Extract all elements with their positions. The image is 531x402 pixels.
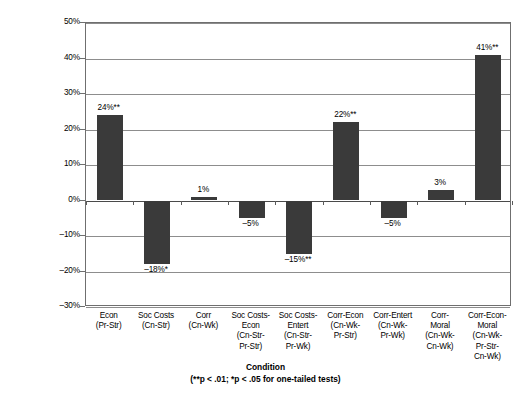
y-tick-label: –30% [38,302,80,310]
bar-value-label: 1% [163,185,243,194]
x-tick-mark [370,201,371,205]
y-tick-label: 30% [38,89,80,97]
gridline-50 [86,23,510,24]
y-tick-mark [79,93,85,94]
x-tick-mark [417,201,418,205]
x-category-label: Corr-Entert (Cn-Wk- Pr-Wk) [369,311,416,342]
gridline--30 [86,307,510,308]
x-category-label: Soc Costs (Cn-Str) [132,311,179,331]
x-tick-mark [323,201,324,205]
bar-value-label: –5% [211,219,291,228]
y-tick-mark [79,164,85,165]
y-tick-mark [79,306,85,307]
bar [191,197,217,201]
x-tick-mark [86,201,87,205]
x-tick-mark [465,201,466,205]
x-tick-mark [133,201,134,205]
bar-value-label: 3% [400,178,480,187]
x-category-label: Corr-Econ- Moral (Cn-Wk- Pr-Str- Cn-Wk) [464,311,511,362]
y-tick-label: 10% [38,160,80,168]
bar [333,122,359,200]
gridline-10 [86,165,510,166]
bar-value-label: 22%** [305,110,385,119]
bar [428,190,454,201]
y-tick-mark [79,58,85,59]
x-tick-mark [228,201,229,205]
bar [239,201,265,219]
y-tick-mark [79,22,85,23]
y-tick-mark [79,271,85,272]
x-category-label: Soc Costs- Econ (Cn-Str- Pr-Str) [227,311,274,352]
x-category-label: Corr- Moral (Cn-Wk- Cn-Wk) [416,311,463,352]
x-axis-title: Condition [0,362,531,373]
x-tick-mark [181,201,182,205]
bar-value-label: –5% [353,219,433,228]
gridline-30 [86,94,510,95]
chart-figure: Relative Impact of Messages (compared to… [0,0,531,402]
x-tick-mark [512,201,513,205]
gridline-40 [86,59,510,60]
y-tick-mark [79,235,85,236]
bar [381,201,407,219]
y-tick-mark [79,200,85,201]
y-tick-label: 0% [38,196,80,204]
y-tick-label: –10% [38,231,80,239]
bar-value-label: –18%* [116,265,196,274]
x-category-label: Corr (Cn-Wk) [180,311,227,331]
x-category-label: Corr-Econ (Cn-Wk- Pr-Str) [322,311,369,342]
x-category-label: Soc Costs- Entert (Cn-Str- Pr-Wk) [274,311,321,352]
bar [97,115,123,200]
y-tick-label: 20% [38,125,80,133]
y-tick-label: 50% [38,18,80,26]
bar-value-label: 24%** [69,103,149,112]
bar [144,201,170,265]
bar-value-label: 41%** [447,43,527,52]
gridline-20 [86,130,510,131]
y-tick-mark [79,129,85,130]
x-category-label: Econ (Pr-Str) [85,311,132,331]
y-tick-label: –20% [38,267,80,275]
bar-value-label: –15%** [258,255,338,264]
x-axis-significance-note: (**p < .01; *p < .05 for one-tailed test… [0,374,531,385]
x-tick-mark [275,201,276,205]
y-tick-label: 40% [38,54,80,62]
